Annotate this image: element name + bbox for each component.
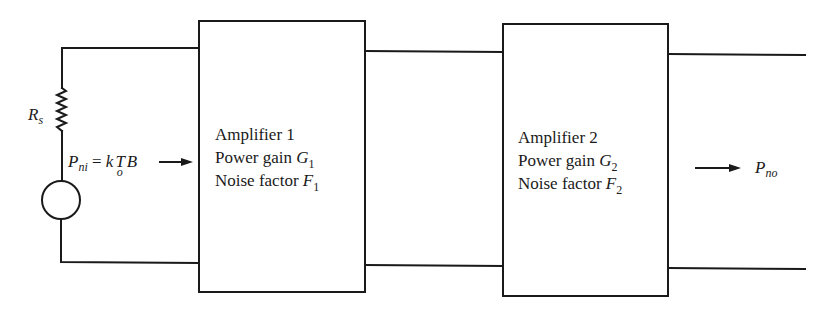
amplifier-2-noise: Noise factor F2 <box>518 174 622 197</box>
resistor-label: Rs <box>27 105 43 127</box>
block-diagram: Rs Pni = kToB Amplifier 1 Power gain G1 … <box>0 0 834 312</box>
amplifier-1-gain: Power gain G1 <box>215 148 315 171</box>
source-bottom-wire <box>61 219 199 263</box>
output-power-label: Pno <box>754 158 777 180</box>
source-top-wire <box>62 48 199 88</box>
output-arrow-icon <box>696 164 741 172</box>
input-power-label: Pni = kToB <box>67 152 138 179</box>
amplifier-2-gain: Power gain G2 <box>518 151 618 174</box>
output-top-wire <box>668 54 805 55</box>
interstage-top-wire <box>365 51 503 52</box>
output-bottom-wire <box>668 268 805 269</box>
interstage-bottom-wire <box>365 265 503 266</box>
amplifier-1-noise: Noise factor F1 <box>215 171 319 194</box>
amplifier-1-name: Amplifier 1 <box>215 125 295 144</box>
resistor-rs-icon <box>57 88 66 131</box>
amplifier-2-name: Amplifier 2 <box>518 128 598 147</box>
noise-source-icon <box>42 181 80 219</box>
input-arrow-icon <box>160 158 193 166</box>
